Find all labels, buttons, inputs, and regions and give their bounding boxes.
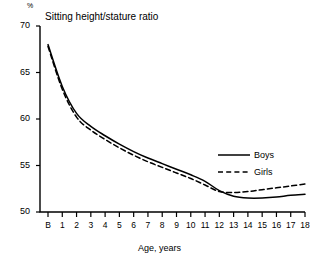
y-tick-label: 65 bbox=[8, 67, 30, 77]
y-tick-label: 70 bbox=[8, 20, 30, 30]
x-axis-title: Age, years bbox=[0, 243, 319, 253]
y-tick-label: 50 bbox=[8, 206, 30, 216]
legend-label-boys: Boys bbox=[254, 150, 274, 160]
chart-container: % Sitting height/stature ratio Age, year… bbox=[0, 0, 319, 264]
chart-axes bbox=[40, 26, 305, 212]
chart-title: Sitting height/stature ratio bbox=[45, 11, 158, 22]
x-tick-label: 18 bbox=[296, 220, 314, 230]
y-tick-label: 55 bbox=[8, 160, 30, 170]
y-axis-unit-label: % bbox=[27, 2, 33, 9]
legend-label-girls: Girls bbox=[254, 167, 273, 177]
chart-tick-marks bbox=[36, 26, 305, 217]
y-tick-label: 60 bbox=[8, 113, 30, 123]
legend-line-samples bbox=[218, 155, 250, 172]
